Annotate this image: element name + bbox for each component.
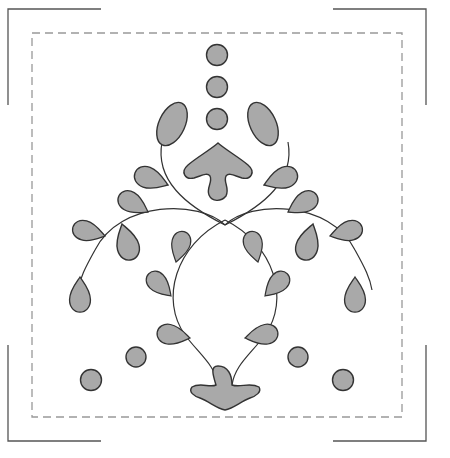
fleur-top (184, 143, 252, 200)
crop-mark-top-left (8, 9, 101, 105)
leaf (241, 229, 267, 264)
leaf (327, 218, 364, 246)
leaf-top-right (241, 98, 284, 151)
leaf (243, 322, 279, 347)
leaf (70, 218, 107, 246)
dot (207, 77, 228, 98)
leaf (111, 221, 142, 262)
dot (333, 370, 354, 391)
leaf (258, 267, 293, 302)
dot (288, 347, 308, 367)
pattern-canvas (0, 0, 450, 458)
leaf (293, 221, 324, 262)
fleur-bottom (191, 366, 260, 410)
crop-mark-bottom-left (8, 345, 101, 441)
dot (126, 347, 146, 367)
leaf (131, 163, 171, 195)
leaf (155, 322, 191, 347)
leaf (345, 277, 366, 312)
dot (207, 45, 228, 66)
leaf-top-left (150, 98, 193, 151)
leaf (70, 277, 91, 312)
dot (207, 109, 228, 130)
dot (81, 370, 102, 391)
leaf (260, 163, 300, 195)
leaf (142, 267, 177, 302)
leaf (167, 229, 193, 264)
crop-mark-bottom-right (333, 345, 426, 441)
top-dots (207, 45, 228, 130)
appliqué-pattern (0, 0, 450, 458)
crop-mark-top-right (333, 9, 426, 105)
